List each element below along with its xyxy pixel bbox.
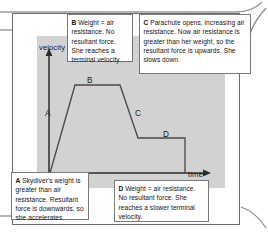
velocity-curve (50, 85, 185, 173)
callout-box-d: D Weight = air resistance. No resultant … (114, 180, 209, 222)
callout-a-text: Skydiver's weight is greater than air re… (16, 177, 84, 221)
callout-b-text: Weight = air resistance. No resultant fo… (72, 19, 122, 63)
curve-label-d: D (163, 130, 169, 139)
callout-box-b: B Weight = air resistance. No resultant … (67, 14, 133, 62)
x-axis-label: time (188, 170, 203, 179)
curve-label-a: A (45, 109, 50, 118)
callout-d-text: Weight = air resistance. No resultant fo… (119, 185, 196, 220)
callout-c-text: Parachute opens, increasing air resistan… (144, 19, 245, 63)
y-axis-label: velocity (39, 43, 65, 52)
callout-box-c: C Parachute opens, increasing air resist… (139, 14, 251, 74)
curve-label-b: B (87, 76, 92, 85)
curve-label-c: C (135, 109, 141, 118)
page-edge-top (0, 2, 262, 12)
callout-box-a: A Skydiver's weight is greater than air … (11, 172, 89, 220)
page-edge-right-lower (241, 207, 266, 228)
x-axis-arrowhead (203, 170, 211, 177)
